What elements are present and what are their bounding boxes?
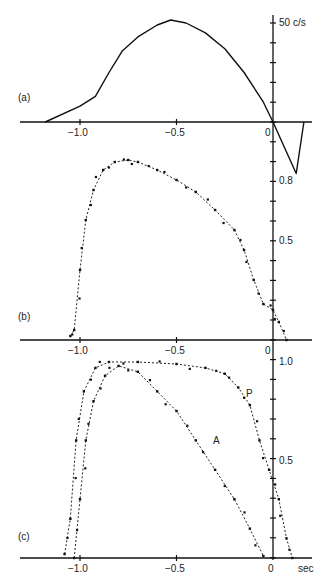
c-ytick-0.5: 0.5: [279, 455, 293, 466]
b-ytick-0.8: 0.8: [279, 175, 293, 186]
b-xtick-m0.5: −0.5: [165, 345, 185, 356]
a-xtick-m0.5: −0.5: [165, 127, 185, 138]
axes: [20, 15, 312, 561]
c-xtick-0: 0: [268, 563, 274, 574]
a-xtick-m1.0: −1.0: [68, 127, 88, 138]
x-unit-label: sec: [298, 563, 314, 574]
a-ytick-label: 50 c/s: [279, 17, 306, 28]
panel-a-label: (a): [18, 92, 30, 103]
series-P-label: P: [246, 388, 253, 399]
curves: [45, 20, 304, 559]
b-ytick-0.5: 0.5: [279, 235, 293, 246]
series-A-label: A: [213, 435, 220, 446]
panel-c-label: (c): [18, 531, 30, 542]
figure: [0, 0, 331, 588]
c-xtick-m0.5: −0.5: [165, 563, 185, 574]
a-xtick-0: 0: [265, 127, 271, 138]
c-ytick-1.0: 1.0: [279, 356, 293, 367]
b-xtick-m1.0: −1.0: [68, 345, 88, 356]
b-xtick-0: 0: [265, 345, 271, 356]
c-xtick-m1.0: −1.0: [68, 563, 88, 574]
panel-b-label: (b): [18, 311, 30, 322]
